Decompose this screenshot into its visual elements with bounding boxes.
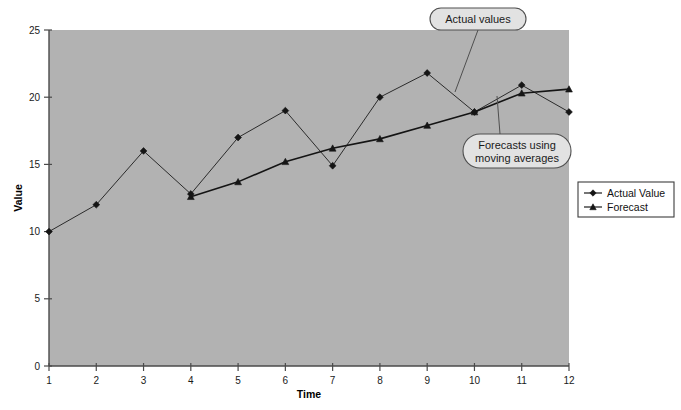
x-axis-title: Time [297,388,321,400]
x-tick-label: 3 [141,375,147,386]
chart-container: 0510152025 123456789101112 Value Time Ac… [0,0,681,410]
forecasts-callout-text: moving averages [475,152,559,164]
forecasts-callout-text: Forecasts using [478,139,556,151]
x-tick-label: 7 [330,375,336,386]
actual-values-callout-text: Actual values [445,13,511,25]
x-tick-label: 10 [469,375,481,386]
x-tick-label: 9 [424,375,430,386]
line-chart: 0510152025 123456789101112 Value Time Ac… [0,0,681,410]
x-tick-label: 12 [563,375,575,386]
y-tick-label: 0 [34,361,40,372]
y-tick-label: 15 [29,159,41,170]
x-tick-label: 4 [188,375,194,386]
y-tick-label: 25 [29,25,41,36]
x-tick-label: 5 [235,375,241,386]
legend: Actual ValueForecast [578,182,674,217]
x-tick-label: 11 [517,375,528,386]
x-tick-label: 8 [377,375,383,386]
legend-item-label: Actual Value [607,187,665,199]
y-axis-title: Value [12,184,24,212]
plot-area-background [49,30,569,366]
y-tick-label: 5 [34,293,40,304]
y-tick-label: 10 [29,226,41,237]
legend-item-label: Forecast [607,201,648,213]
x-tick-label: 1 [46,375,52,386]
x-tick-label: 6 [283,375,289,386]
x-tick-label: 2 [93,375,99,386]
y-tick-label: 20 [29,92,41,103]
